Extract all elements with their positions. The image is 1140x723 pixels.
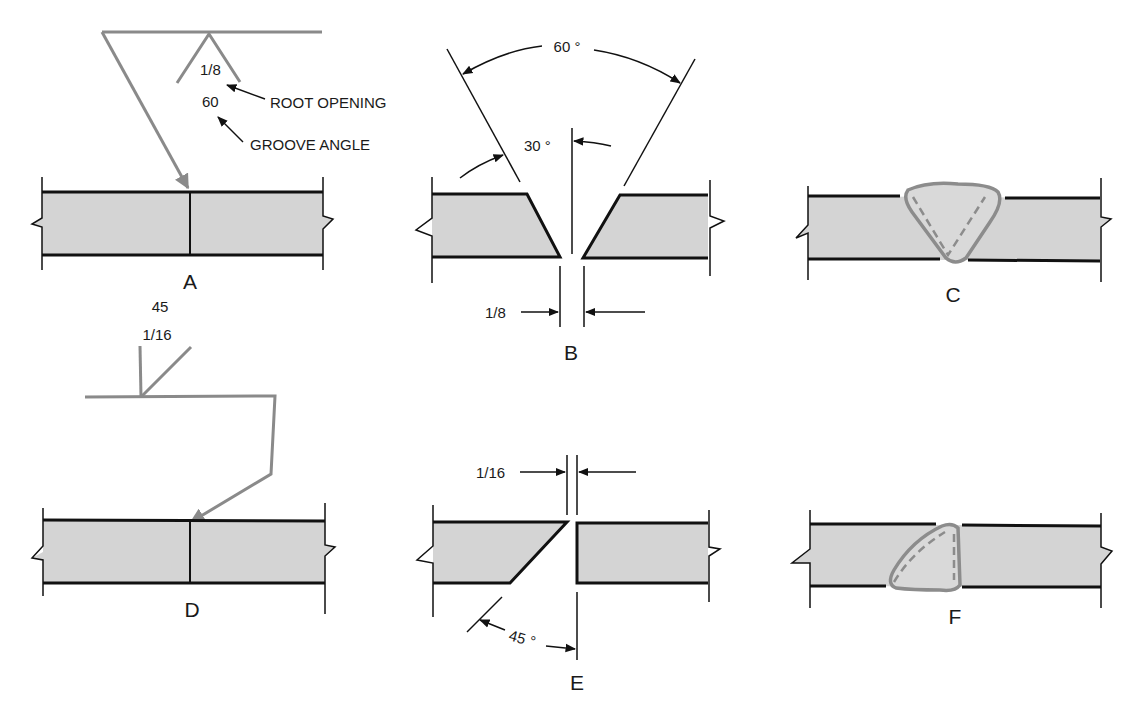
root-opening-label: 1/16 <box>476 464 505 481</box>
panel-label-c: C <box>945 283 960 306</box>
bevel-angle-label: 45 ° <box>507 626 537 649</box>
welding-diagram: 1/8 60 ROOT OPENING GROOVE ANGLE A 60 ° <box>0 0 1140 723</box>
plate <box>32 192 333 255</box>
panel-b: 60 ° 30 ° 1/8 B <box>416 38 724 364</box>
panel-label-d: D <box>184 598 199 621</box>
callout-groove-angle: GROOVE ANGLE <box>250 136 370 153</box>
bevel-angle-label: 30 ° <box>524 137 551 154</box>
symbol-root-opening: 1/16 <box>142 326 171 343</box>
root-opening-label: 1/8 <box>485 304 506 321</box>
symbol-groove-angle: 45 <box>152 298 169 315</box>
panel-e: 1/16 45 ° E <box>417 455 720 694</box>
panel-a: 1/8 60 ROOT OPENING GROOVE ANGLE A <box>32 32 386 293</box>
panel-c: C <box>796 178 1111 306</box>
panel-label-b: B <box>564 341 578 364</box>
panel-f: F <box>792 510 1112 628</box>
panel-d: 45 1/16 D <box>32 298 335 621</box>
panel-label-e: E <box>570 671 584 694</box>
callout-root-opening: ROOT OPENING <box>270 94 386 111</box>
welding-symbol-d <box>85 346 275 522</box>
symbol-groove-angle: 60 <box>202 93 219 110</box>
symbol-root-opening: 1/8 <box>200 61 221 78</box>
included-angle-label: 60 ° <box>554 38 581 55</box>
panel-label-f: F <box>949 605 962 628</box>
panel-label-a: A <box>183 270 197 293</box>
